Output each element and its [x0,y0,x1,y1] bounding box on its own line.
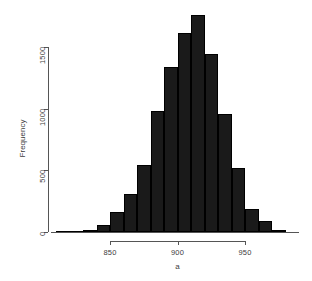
x-axis-tick-rule [110,241,245,242]
bars-container [0,0,312,281]
histogram-bar [232,168,246,232]
histogram-plot: Frequency 050010001500 850900950 a [0,0,312,281]
histogram-bar [245,209,259,232]
histogram-bar [178,33,192,232]
histogram-bar [137,165,151,232]
x-axis-tick-label: 950 [225,248,265,257]
histogram-bar [218,114,232,232]
histogram-bar [124,194,138,232]
histogram-bar [164,67,178,232]
histogram-bar [191,15,205,232]
histogram-bar [151,111,165,232]
histogram-bar [259,221,273,232]
x-axis-tick-label: 850 [90,248,130,257]
x-axis-line [51,232,299,233]
x-axis-title: a [148,262,208,271]
histogram-bar [205,54,219,232]
x-axis-tick-label: 900 [158,248,198,257]
x-axis-tick [245,241,246,245]
histogram-bar [110,212,124,232]
histogram-bar [97,225,111,232]
